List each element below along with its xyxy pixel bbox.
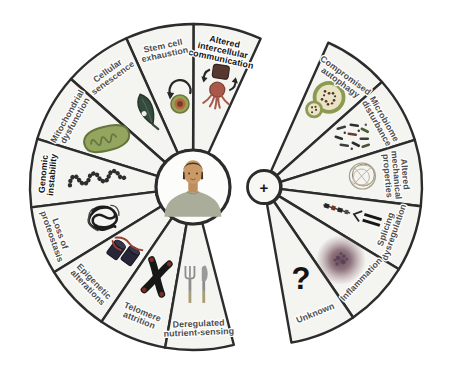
sector-label-deregulated-nutrient-sensing: Deregulatednutrient-sensing	[163, 317, 234, 339]
sector-label-genomic-instability: Genomicinstability	[36, 152, 58, 196]
plus-icon: +	[260, 179, 269, 196]
diagram-canvas: Alteredintercellularcommunication Stem c…	[0, 0, 451, 378]
question-mark-icon: ?	[292, 261, 311, 296]
svg-text:?: ?	[292, 261, 311, 296]
hallmarks-of-aging-diagram: Alteredintercellularcommunication Stem c…	[0, 0, 451, 378]
